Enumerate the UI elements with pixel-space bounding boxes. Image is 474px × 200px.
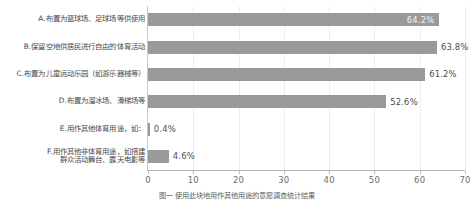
bar xyxy=(148,68,425,81)
x-axis-tick-label: 70 xyxy=(459,175,470,185)
gridline xyxy=(329,6,330,170)
x-axis-tick-label: 40 xyxy=(324,175,335,185)
bar-chart: 010203040506070 A.布置为篮球场、足球场等供使用64.2%B.保… xyxy=(0,0,474,200)
tick-mark xyxy=(465,171,466,174)
bar-value-label: 52.6% xyxy=(390,97,418,107)
category-label: D.布置为溜冰场、滑梯场等 xyxy=(59,97,145,106)
bar xyxy=(148,13,439,26)
gridline xyxy=(239,6,240,170)
tick-mark xyxy=(148,171,149,174)
bar xyxy=(148,123,150,136)
category-axis-line xyxy=(147,6,148,170)
bar-value-label: 61.2% xyxy=(429,69,457,79)
x-axis-tick-label: 30 xyxy=(278,175,289,185)
gridline xyxy=(374,6,375,170)
bar xyxy=(148,41,437,54)
gridline xyxy=(284,6,285,170)
x-axis-tick-label: 60 xyxy=(414,175,425,185)
gridline xyxy=(465,6,466,170)
figure-caption: 图一 使用此块地用作其他用途的意愿调查统计结果 xyxy=(0,190,474,200)
tick-mark xyxy=(329,171,330,174)
bar-value-label: 64.2% xyxy=(407,15,435,25)
x-axis-tick-label: 50 xyxy=(369,175,380,185)
x-axis-tick-label: 10 xyxy=(188,175,199,185)
tick-mark xyxy=(193,171,194,174)
bar-value-label: 0.4% xyxy=(154,124,176,134)
gridline xyxy=(420,6,421,170)
category-label: E.用作其他体育用途，如： xyxy=(60,125,145,134)
category-label: B.保留空地供居民进行自由的体育活动 xyxy=(24,43,145,52)
tick-mark xyxy=(374,171,375,174)
bar xyxy=(148,95,386,108)
category-label: A.布置为篮球场、足球场等供使用 xyxy=(38,15,145,24)
bar-value-label: 4.6% xyxy=(173,151,195,161)
tick-mark xyxy=(284,171,285,174)
tick-mark xyxy=(239,171,240,174)
category-label: C.布置为儿童运动乐园（如游乐器械等） xyxy=(17,70,145,79)
category-label: F.用作其他非体育用途，如搭建 群众活动舞台、露天电影等 xyxy=(47,148,145,165)
tick-mark xyxy=(420,171,421,174)
x-axis-tick-label: 0 xyxy=(145,175,151,185)
x-axis-tick-label: 20 xyxy=(233,175,244,185)
bar-value-label: 63.8% xyxy=(441,42,469,52)
value-axis-line xyxy=(147,170,465,171)
gridline xyxy=(193,6,194,170)
bar xyxy=(148,150,169,163)
